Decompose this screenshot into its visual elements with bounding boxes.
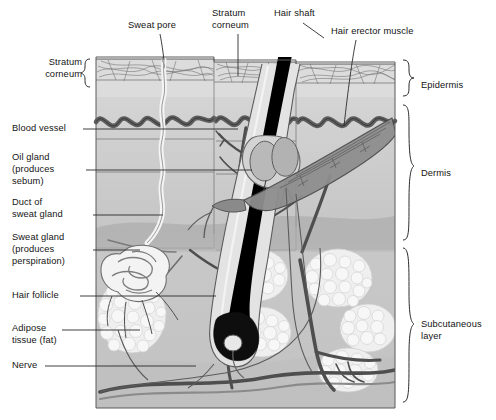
brace-stratum-corneum-left [81,59,90,87]
leader-hair-shaft [303,23,324,38]
label-sweat-gland-line3: perspiration) [12,256,65,268]
leader-sweat-pore [160,34,164,60]
label-nerve: Nerve [12,360,37,372]
label-stratum-corneum-left-line2: corneum [27,69,82,81]
brace-epidermis [403,60,414,96]
label-oil-gland: Oil gland [12,152,50,164]
label-hair-shaft: Hair shaft [274,8,315,20]
label-oil-gland-line3: sebum) [12,176,44,188]
label-epidermis: Epidermis [421,80,463,92]
label-sweat-pore: Sweat pore [128,20,176,32]
label-adipose-tissue: Adipose [12,323,46,335]
layer-braces [403,60,414,402]
label-blood-vessel: Blood vessel [12,123,66,135]
label-stratum-corneum-left: Stratum [27,57,82,69]
label-sweat-gland-line2: (produces [12,244,54,256]
label-hair-erector-muscle: Hair erector muscle [331,26,414,38]
label-subcutaneous-layer-line2: layer [421,331,442,343]
label-stratum-corneum-top: Stratum [212,8,245,20]
label-adipose-tissue-line2: tissue (fat) [12,335,57,347]
brace-dermis [403,105,414,240]
label-duct-of-sweat-gland: Duct of [12,197,42,209]
brace-subcutaneous-layer [403,248,414,402]
label-stratum-corneum-top-line2: corneum [212,20,249,32]
label-oil-gland-line2: (produces [12,164,54,176]
skin-cross-section-diagram: Stratum corneum Blood vessel Oil gland (… [0,0,496,420]
label-hair-follicle: Hair follicle [12,290,59,302]
label-sweat-gland: Sweat gland [12,232,64,244]
label-subcutaneous-layer: Subcutaneous [421,319,482,331]
oil-gland-lobule [272,138,298,177]
label-duct-of-sweat-gland-line2: sweat gland [12,209,63,221]
label-dermis: Dermis [421,168,451,180]
